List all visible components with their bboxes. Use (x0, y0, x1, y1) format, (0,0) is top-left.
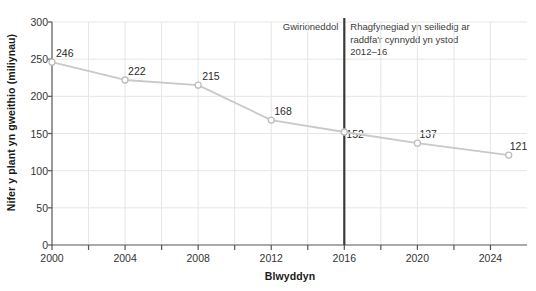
data-point-marker[interactable] (414, 140, 420, 146)
plot-area (0, 0, 536, 291)
data-point-marker[interactable] (122, 77, 128, 83)
data-point-marker[interactable] (506, 152, 512, 158)
data-point-marker[interactable] (341, 129, 347, 135)
data-point-marker[interactable] (49, 59, 55, 65)
chart-container: Nifer y plant yn gweithio (miliynau) Blw… (0, 0, 536, 291)
data-point-marker[interactable] (268, 117, 274, 123)
data-point-marker[interactable] (195, 82, 201, 88)
data-series-line (52, 62, 509, 155)
